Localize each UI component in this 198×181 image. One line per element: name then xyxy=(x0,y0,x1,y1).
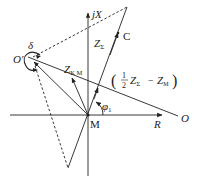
dashed-upper xyxy=(33,7,127,57)
svg-text:ZM: ZM xyxy=(157,74,169,87)
delta-arrow-bottom-icon xyxy=(33,68,38,72)
svg-text:ZΣ: ZΣ xyxy=(130,74,140,88)
o-label: O xyxy=(181,112,189,124)
diagram-canvas: jX R M O O′ C δ ZΣ ZK M φ1 ( 1 2 ZΣ − ZM… xyxy=(0,0,198,181)
impedance-diagram: jX R M O O′ C δ ZΣ ZK M φ1 ( 1 2 ZΣ − ZM… xyxy=(0,0,198,181)
jx-label: jX xyxy=(90,8,103,20)
c-label: C xyxy=(123,30,130,42)
r-label: R xyxy=(153,118,161,130)
z-km-label: ZK M xyxy=(64,63,82,76)
phi-label: φ1 xyxy=(102,100,112,114)
svg-text:(: ( xyxy=(111,72,116,90)
z-sigma-lower-arrow xyxy=(94,88,98,99)
c-point xyxy=(117,32,120,35)
delta-label: δ xyxy=(28,39,34,51)
dashed-lower xyxy=(35,66,68,168)
z-sigma-arrow xyxy=(110,33,118,55)
m-label: M xyxy=(90,118,100,130)
svg-text:2: 2 xyxy=(122,81,126,90)
vector-zkm xyxy=(72,78,88,115)
o-prime-label: O′ xyxy=(13,53,24,65)
expression-label: ( 1 2 ZΣ − ZM ) xyxy=(111,71,177,90)
delta-arrow-top-icon xyxy=(36,55,41,59)
z-sigma-line xyxy=(68,7,127,168)
delta-arc xyxy=(24,52,40,70)
svg-text:1: 1 xyxy=(122,71,126,80)
z-sigma-label: ZΣ xyxy=(94,37,104,51)
svg-text:−: − xyxy=(148,75,154,86)
svg-text:): ) xyxy=(172,72,177,90)
origin-dot xyxy=(87,114,90,117)
